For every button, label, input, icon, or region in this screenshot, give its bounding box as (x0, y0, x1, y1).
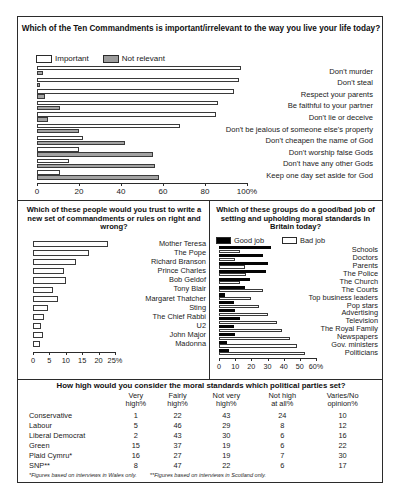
category-label: Madonna (175, 339, 206, 348)
x-axis-tick-label: 60 (143, 187, 183, 196)
category-label: Don't steal (337, 78, 373, 87)
column-header-line: high% (115, 400, 157, 408)
x-axis-tick (66, 352, 67, 355)
table-body: Conservative122432410Labour54629812Liber… (27, 410, 375, 470)
table-cell: 19 (198, 440, 254, 450)
category-label: Don't have any other Gods (283, 159, 373, 168)
x-axis-tick (115, 352, 116, 355)
legend-swatch-not-relevant-icon (103, 55, 119, 63)
column-header: Fairlyhigh% (157, 392, 199, 410)
category-label: Keep one day set aside for God (266, 171, 373, 180)
x-axis-tick (49, 352, 50, 355)
table-footnotes: *Figures based on interviews in Wales on… (29, 472, 266, 478)
table-head: Veryhigh%Fairlyhigh%Not veryhigh%Not hig… (27, 392, 375, 410)
x-axis-tick (33, 352, 34, 355)
table-row-label: SNP** (27, 460, 115, 470)
x-axis-tick-label: 0 (17, 187, 57, 196)
bar-trust-to-write-5-0 (33, 287, 53, 293)
bar-good-bad-job-5-1 (219, 289, 263, 292)
bar-ten-commandments-7-0 (37, 147, 79, 151)
bar-ten-commandments-8-0 (37, 159, 69, 163)
bar-good-bad-job-7-1 (219, 305, 259, 308)
category-label: Be faithful to your partner (288, 101, 373, 110)
bar-good-bad-job-3-1 (219, 273, 246, 276)
x-axis-tick (235, 358, 236, 361)
table-political-parties: How high would you consider the moral st… (19, 379, 383, 483)
bar-ten-commandments-3-0 (37, 101, 218, 105)
bar-ten-commandments-5-1 (37, 129, 79, 133)
column-header (27, 392, 115, 410)
bar-trust-to-write-2-0 (33, 259, 76, 265)
bar-good-bad-job-12-1 (219, 344, 297, 347)
bar-good-bad-job-10-1 (219, 329, 282, 332)
bar-ten-commandments-1-0 (37, 78, 239, 82)
footnote-wales: *Figures based on interviews in Wales on… (29, 472, 137, 478)
table-cell: 43 (157, 430, 199, 440)
chart2-title: Which of these people would you trust to… (19, 201, 209, 232)
table-title: How high would you consider the moral st… (19, 379, 383, 391)
table-cell: 37 (157, 440, 199, 450)
bar-good-bad-job-11-1 (219, 337, 290, 340)
category-label: U2 (197, 321, 206, 330)
bar-ten-commandments-5-0 (37, 124, 180, 128)
table-row: Conservative122432410 (27, 410, 375, 420)
category-label: Richard Branson (151, 257, 206, 266)
table-cell: 12 (310, 420, 375, 430)
category-label: Politicians (345, 348, 378, 357)
bar-good-bad-job-2-1 (219, 265, 245, 268)
table-cell: 19 (198, 450, 254, 460)
table-row: Liberal Democrat24330616 (27, 430, 375, 440)
table-header-row: Veryhigh%Fairlyhigh%Not veryhigh%Not hig… (27, 392, 375, 410)
chart3-legend: Good job Bad job (216, 236, 339, 245)
bar-trust-to-write-0-0 (33, 241, 108, 247)
bar-trust-to-write-3-0 (33, 268, 64, 274)
table-cell: 6 (254, 430, 310, 440)
legend-item-good-job: Good job (216, 236, 264, 245)
x-axis-tick (300, 358, 301, 361)
table-cell: 16 (115, 450, 157, 460)
legend-label-important: Important (55, 54, 89, 63)
category-label: Don't be jealous of someone else's prope… (226, 125, 373, 134)
column-header-line: opinion% (310, 400, 375, 408)
bar-trust-to-write-6-0 (33, 296, 58, 302)
category-label: Bob Geldof (169, 275, 206, 284)
bar-trust-to-write-7-0 (33, 305, 48, 311)
x-axis-tick (79, 183, 80, 186)
table-cell: 22 (198, 460, 254, 470)
x-axis-line (37, 183, 248, 184)
bar-ten-commandments-6-0 (37, 136, 83, 140)
chart-frame: Which of the Ten Commandments is importa… (17, 16, 383, 483)
column-header-line: at all% (254, 400, 310, 408)
bar-ten-commandments-0-1 (37, 71, 43, 75)
table-cell: 7 (254, 450, 310, 460)
x-axis-tick-label: 80 (185, 187, 225, 196)
table-cell: 6 (254, 440, 310, 450)
x-axis-tick (99, 352, 100, 355)
bar-trust-to-write-1-0 (33, 250, 89, 256)
x-axis-tick (247, 183, 248, 186)
x-axis-tick (205, 183, 206, 186)
legend-label-not-relevant: Not relevant (122, 54, 165, 63)
moral-standards-table: Veryhigh%Fairlyhigh%Not veryhigh%Not hig… (27, 392, 375, 470)
x-axis-tick (268, 358, 269, 361)
table-cell: 43 (198, 410, 254, 420)
x-axis-tick-label: 25% (95, 356, 135, 365)
legend-swatch-important-icon (36, 55, 52, 63)
column-header: Not veryhigh% (198, 392, 254, 410)
chart3-title: Which of these groups do a good/bad job … (209, 201, 382, 232)
x-axis-tick-label: 100% (227, 187, 267, 196)
x-axis-tick-label: 40 (101, 187, 141, 196)
chart1-legend: Important Not relevant (36, 54, 175, 63)
category-label: Don't murder (329, 67, 373, 76)
legend-label-bad-job: Bad job (300, 236, 325, 245)
column-header: Varies/Noopinion% (310, 392, 375, 410)
table-cell: 6 (254, 460, 310, 470)
table-cell: 8 (115, 460, 157, 470)
column-header: Not highat all% (254, 392, 310, 410)
column-header-line: high% (198, 400, 254, 408)
legend-swatch-bad-job-icon (282, 237, 297, 244)
bar-trust-to-write-8-0 (33, 314, 44, 320)
x-axis-tick (82, 352, 83, 355)
bar-ten-commandments-9-1 (37, 175, 159, 179)
legend-item-important: Important (36, 54, 89, 63)
